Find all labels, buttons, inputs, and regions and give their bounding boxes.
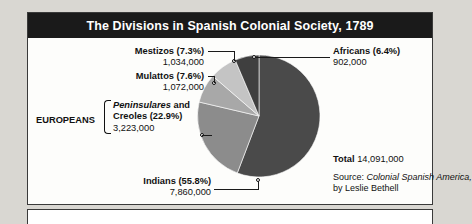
label-africans: Africans (6.4%) 902,000: [333, 46, 443, 69]
label-mulattos-value: 1,072,000: [163, 82, 204, 92]
label-africans-name: Africans (6.4%): [333, 46, 400, 56]
leader-line-creoles: [202, 135, 212, 136]
label-indians-name: Indians (55.8%): [143, 176, 211, 186]
label-indians: Indians (55.8%) 7,860,000: [81, 176, 211, 199]
leader-line-africans: [256, 57, 330, 58]
page-title: The Divisions in Spanish Colonial Societ…: [86, 19, 373, 33]
label-mestizos-name: Mestizos (7.3%): [135, 46, 204, 56]
label-creoles-and: and: [171, 100, 190, 110]
leader-line-mestizos-h: [208, 51, 235, 52]
figure-title-bar: The Divisions in Spanish Colonial Societ…: [28, 13, 432, 38]
label-peninsulares-italic: Peninsulares: [113, 100, 171, 110]
next-panel-edge: [27, 209, 433, 224]
leader-line-mulattos-v: [214, 76, 215, 83]
label-peninsulares-creoles: Peninsulares and Creoles (22.9%) 3,223,0…: [113, 100, 211, 134]
label-creoles-line2: Creoles (22.9%): [113, 111, 182, 121]
total-value: 14,091,000: [357, 154, 404, 164]
label-mulattos: Mulattos (7.6%) 1,072,000: [86, 71, 204, 94]
leader-line-mulattos-h: [208, 76, 215, 77]
leader-line-mestizos-v: [234, 51, 235, 61]
source-prefix: Source:: [333, 172, 364, 182]
source-work-title: Colonial Spanish America,: [367, 172, 472, 182]
pie-svg: [196, 43, 322, 185]
pie-chart: [196, 43, 322, 185]
leader-line-indians-v: [258, 181, 259, 189]
source-note: Source: Colonial Spanish America, by Les…: [333, 172, 472, 194]
source-author: by Leslie Bethell: [333, 183, 399, 193]
chart-plot-area: Mestizos (7.3%) 1,034,000 Mulattos (7.6%…: [28, 38, 432, 204]
label-indians-value: 7,860,000: [170, 187, 211, 197]
label-creoles-value: 3,223,000: [113, 123, 154, 133]
total-label: Total: [333, 154, 355, 164]
label-mestizos: Mestizos (7.3%) 1,034,000: [86, 46, 204, 69]
label-mulattos-name: Mulattos (7.6%): [136, 71, 204, 81]
label-mestizos-value: 1,034,000: [163, 57, 204, 67]
label-africans-value: 902,000: [333, 57, 367, 67]
total-line: Total 14,091,000: [333, 154, 404, 165]
label-europeans-group: EUROPEANS: [36, 115, 95, 126]
figure-panel: The Divisions in Spanish Colonial Societ…: [27, 12, 433, 205]
leader-line-indians-h: [214, 189, 259, 190]
europeans-brace: [104, 100, 111, 134]
